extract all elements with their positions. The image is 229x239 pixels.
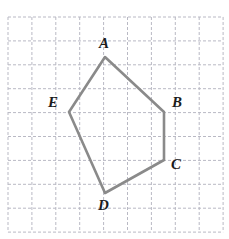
vertex-label-b: B bbox=[172, 95, 182, 110]
vertex-label-c: C bbox=[171, 157, 181, 172]
vertex-label-a: A bbox=[99, 36, 109, 51]
vertex-label-e: E bbox=[48, 95, 58, 110]
figure-svg bbox=[0, 0, 229, 239]
vertex-label-d: D bbox=[98, 198, 109, 213]
grid-lines bbox=[8, 17, 223, 232]
pentagon-outline bbox=[69, 57, 164, 193]
figure-canvas: ABCDE bbox=[0, 0, 229, 239]
